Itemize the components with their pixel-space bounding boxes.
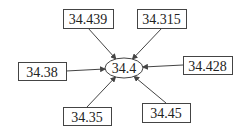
node-left: 34.38 <box>19 63 67 81</box>
edge-top-right <box>132 28 162 59</box>
node-label: 34.35 <box>71 110 103 125</box>
node-bottom-right: 34.45 <box>143 104 191 123</box>
node-right: 34.428 <box>184 57 233 75</box>
node-label: 34.38 <box>26 65 58 80</box>
edge-bottom-left <box>87 77 116 107</box>
edge-top-left <box>88 28 116 59</box>
node-label: 34.439 <box>69 12 108 27</box>
node-label: 34.45 <box>150 106 182 121</box>
node-top-right: 34.315 <box>138 10 187 29</box>
center-node: 34.4 <box>105 58 143 78</box>
node-label: 34.428 <box>188 59 227 74</box>
edge-left <box>66 69 105 71</box>
center-label: 34.4 <box>112 61 137 76</box>
node-bottom-left: 34.35 <box>64 108 112 126</box>
node-label: 34.315 <box>142 12 181 27</box>
average-diagram: 34.43934.31534.3834.42834.3534.45 34.4 <box>0 0 239 135</box>
edge-bottom-right <box>134 76 166 103</box>
node-top-left: 34.439 <box>64 10 114 29</box>
edge-right <box>143 65 183 67</box>
